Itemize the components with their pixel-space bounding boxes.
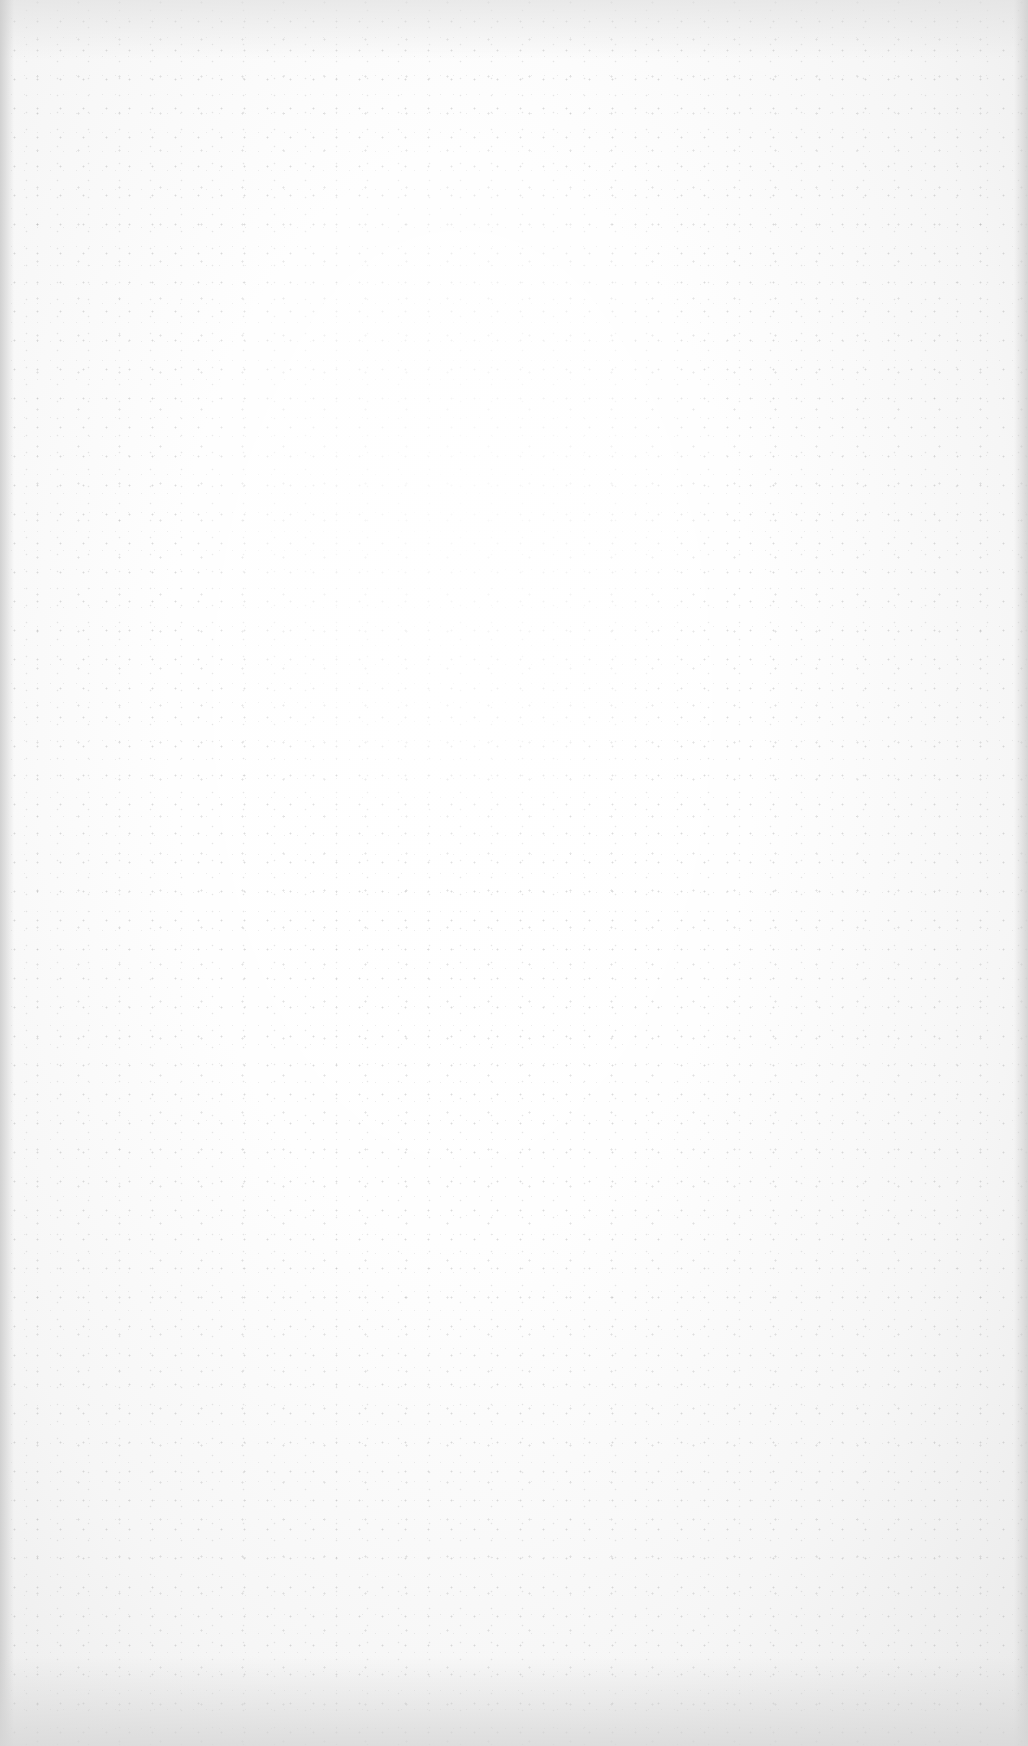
- paper-texture-secondary: [0, 0, 1028, 1746]
- scan-highlight: [180, 120, 740, 880]
- blank-document-page: [0, 0, 1028, 1746]
- paper-texture: [0, 0, 1028, 1746]
- page-edge-bottom: [0, 1656, 1028, 1746]
- page-edge-top: [0, 0, 1028, 60]
- page-edge-right: [1014, 0, 1028, 1746]
- page-edge-left: [0, 0, 14, 1746]
